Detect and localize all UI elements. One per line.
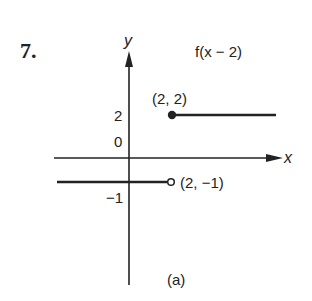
function-label: f(x − 2): [195, 44, 242, 59]
x-axis-arrow-icon: [266, 154, 283, 162]
tick-label-0: 0: [114, 134, 122, 149]
y-axis-label: y: [124, 33, 132, 49]
closed-point-label: (2, 2): [152, 91, 187, 106]
figure-caption: (a): [167, 272, 185, 287]
y-axis-arrow-icon: [125, 51, 133, 67]
x-axis-label: x: [284, 150, 292, 166]
open-point-label: (2, −1): [180, 175, 224, 190]
graph-canvas: [0, 0, 312, 301]
tick-label-2: 2: [114, 108, 122, 123]
problem-number: 7.: [20, 40, 37, 62]
closed-point-icon: [168, 111, 176, 119]
tick-label-neg1: −1: [106, 190, 123, 205]
open-point-icon: [168, 179, 175, 186]
